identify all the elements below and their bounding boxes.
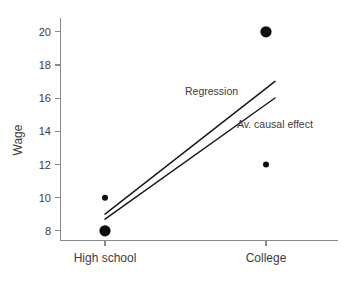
y-tick-label-16: 16 <box>39 92 51 104</box>
data-point-college-wage-20 <box>260 26 271 37</box>
x-tick-label-high-school: High school <box>74 251 137 265</box>
y-axis-title: Wage <box>11 124 25 155</box>
y-tick-label-18: 18 <box>39 59 51 71</box>
wage-education-scatter-chart: 20 18 16 14 12 10 8 Wage High school Col… <box>0 0 347 282</box>
regression-label: Regression <box>185 85 238 97</box>
data-point-college-wage-12 <box>263 162 269 168</box>
y-tick-label-12: 12 <box>39 159 51 171</box>
av-causal-effect-label: Av. causal effect <box>237 118 313 130</box>
x-tick-label-college: College <box>246 251 287 265</box>
y-tick-label-10: 10 <box>39 192 51 204</box>
y-tick-label-20: 20 <box>39 26 51 38</box>
chart-background <box>0 0 347 282</box>
data-point-high-school-wage-8 <box>99 225 110 236</box>
y-tick-label-14: 14 <box>39 125 51 137</box>
y-tick-label-8: 8 <box>45 225 51 237</box>
data-point-high-school-wage-10 <box>102 195 108 201</box>
chart-figure: 20 18 16 14 12 10 8 Wage High school Col… <box>0 0 347 282</box>
